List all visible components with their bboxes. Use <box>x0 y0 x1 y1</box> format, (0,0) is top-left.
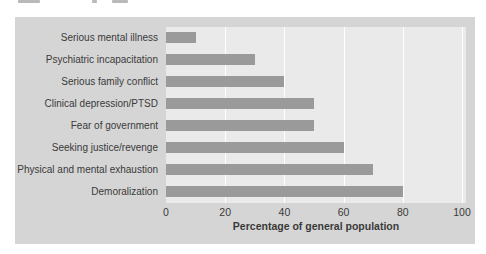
plot-area <box>166 27 466 203</box>
bar <box>166 32 196 43</box>
clipped-text-remnant <box>92 0 97 3</box>
category-label: Serious mental illness <box>17 27 162 49</box>
clipped-text-remnant <box>18 0 40 3</box>
x-tick-label: 80 <box>397 206 409 218</box>
category-label: Demoralization <box>17 181 162 203</box>
bar <box>166 186 403 197</box>
x-axis-tick-labels: 020406080100 <box>166 206 466 219</box>
x-tick-label: 0 <box>163 206 169 218</box>
x-tick-label: 100 <box>453 206 471 218</box>
x-axis-title: Percentage of general population <box>166 220 466 232</box>
category-label: Seeking justice/revenge <box>17 137 162 159</box>
chart-panel: Serious mental illnessPsychiatric incapa… <box>15 17 475 244</box>
category-label: Psychiatric incapacitation <box>17 49 162 71</box>
category-label: Serious family conflict <box>17 71 162 93</box>
category-label: Physical and mental exhaustion <box>17 159 162 181</box>
bar <box>166 164 373 175</box>
clipped-text-remnant <box>112 0 128 3</box>
bar <box>166 54 255 65</box>
x-tick-label: 60 <box>338 206 350 218</box>
figure-canvas: Serious mental illnessPsychiatric incapa… <box>0 0 486 254</box>
gridline-x-60 <box>344 27 345 203</box>
gridline-x-80 <box>403 27 404 203</box>
gridline-x-40 <box>284 27 285 203</box>
x-tick-label: 40 <box>279 206 291 218</box>
bar <box>166 120 314 131</box>
x-tick-label: 20 <box>219 206 231 218</box>
category-label: Fear of government <box>17 115 162 137</box>
bar <box>166 76 284 87</box>
category-axis-labels: Serious mental illnessPsychiatric incapa… <box>17 27 162 203</box>
category-label: Clinical depression/PTSD <box>17 93 162 115</box>
bar <box>166 142 344 153</box>
bar <box>166 98 314 109</box>
gridline-x-100 <box>462 27 463 203</box>
